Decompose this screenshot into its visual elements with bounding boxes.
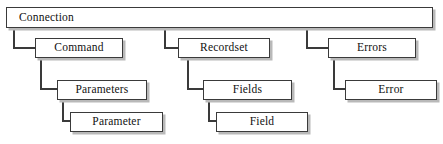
connector-connection-to-command-horizontal: [13, 47, 37, 49]
node-error-label: Error: [378, 84, 403, 96]
node-recordset[interactable]: Recordset: [178, 38, 270, 58]
connector-recordset-to-fields-vertical: [187, 58, 189, 90]
connector-connection-to-errors-vertical: [306, 27, 308, 49]
node-errors-label: Errors: [357, 42, 387, 54]
node-parameter-label: Parameter: [92, 116, 140, 128]
node-field[interactable]: Field: [216, 112, 308, 132]
connector-errors-to-error-vertical: [333, 58, 335, 90]
node-errors[interactable]: Errors: [328, 38, 416, 58]
node-recordset-label: Recordset: [200, 42, 248, 54]
node-parameters-label: Parameters: [75, 84, 128, 96]
object-model-diagram: Connection Command Parameters Parameter …: [0, 0, 443, 144]
node-parameters[interactable]: Parameters: [57, 80, 147, 100]
connector-connection-to-errors-horizontal: [306, 47, 330, 49]
node-connection[interactable]: Connection: [6, 7, 433, 28]
node-field-label: Field: [250, 116, 275, 128]
connector-connection-to-command-vertical: [13, 27, 15, 49]
node-fields-label: Fields: [233, 84, 262, 96]
node-fields[interactable]: Fields: [203, 80, 292, 100]
connector-connection-to-recordset-vertical: [164, 27, 166, 49]
connector-fields-to-field-vertical: [208, 100, 210, 122]
node-error[interactable]: Error: [345, 80, 437, 100]
connector-parameters-to-parameter-vertical: [62, 100, 64, 122]
node-parameter[interactable]: Parameter: [70, 112, 163, 132]
node-command[interactable]: Command: [35, 38, 123, 58]
connector-command-to-parameters-vertical: [40, 58, 42, 90]
node-command-label: Command: [54, 42, 103, 54]
node-connection-label: Connection: [19, 12, 74, 24]
